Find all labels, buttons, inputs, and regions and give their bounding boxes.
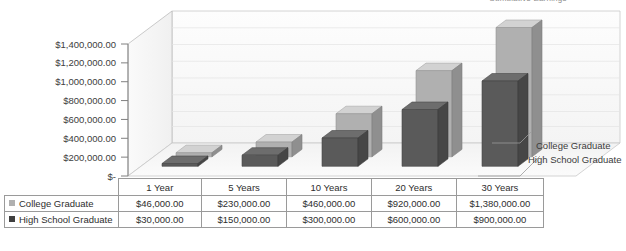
cell-highschool-20years: $600,000.00	[371, 212, 456, 228]
table-header-row: 1 Year 5 Years 10 Years 20 Years 30 Year…	[5, 179, 544, 196]
y-tick-label: $1,400,000.00	[55, 39, 116, 50]
bar-highschool-30years	[482, 74, 528, 167]
y-axis: $1,400,000.00 $1,200,000.00 $1,000,000.0…	[55, 39, 128, 182]
chart-container: Cumulative Earnings	[0, 0, 626, 251]
cell-college-1year: $46,000.00	[118, 196, 201, 212]
cell-college-20years: $920,000.00	[371, 196, 456, 212]
chart-data-table: 1 Year 5 Years 10 Years 20 Years 30 Year…	[4, 178, 544, 228]
cell-college-5years: $230,000.00	[202, 196, 287, 212]
bar-highschool-20years	[402, 102, 448, 166]
table-row: High School Graduate $30,000.00 $150,000…	[5, 212, 544, 228]
legend-item-highschool: High School Graduate	[5, 212, 119, 228]
y-tick-label: $200,000.00	[63, 152, 116, 163]
y-tick-label: $1,000,000.00	[55, 76, 116, 87]
y-tick-label: $400,000.00	[63, 133, 116, 144]
category-header-5years: 5 Years	[202, 179, 287, 196]
legend-label-college: College Graduate	[19, 198, 93, 209]
category-header-10years: 10 Years	[286, 179, 371, 196]
category-header-1year: 1 Year	[118, 179, 201, 196]
series-callout-college: College Graduate	[536, 140, 610, 151]
legend-item-college: College Graduate	[5, 196, 119, 212]
cell-college-30years: $1,380,000.00	[456, 196, 543, 212]
cell-highschool-1year: $30,000.00	[118, 212, 201, 228]
bar-highschool-5years	[242, 148, 288, 167]
cell-highschool-30years: $900,000.00	[456, 212, 543, 228]
category-header-20years: 20 Years	[371, 179, 456, 196]
table-corner-cell	[5, 179, 119, 196]
table-row: College Graduate $46,000.00 $230,000.00 …	[5, 196, 544, 212]
cell-highschool-10years: $300,000.00	[286, 212, 371, 228]
y-tick-label: $800,000.00	[63, 95, 116, 106]
cell-college-10years: $460,000.00	[286, 196, 371, 212]
cell-highschool-5years: $150,000.00	[202, 212, 287, 228]
legend-swatch-college	[9, 200, 15, 206]
bar-highschool-10years	[322, 131, 368, 167]
legend-label-highschool: High School Graduate	[19, 214, 112, 225]
y-tick-label: $600,000.00	[63, 114, 116, 125]
category-header-30years: 30 Years	[456, 179, 543, 196]
series-callout-highschool: High School Graduate	[528, 154, 621, 165]
legend-swatch-highschool	[9, 216, 15, 222]
y-tick-label: $1,200,000.00	[55, 57, 116, 68]
